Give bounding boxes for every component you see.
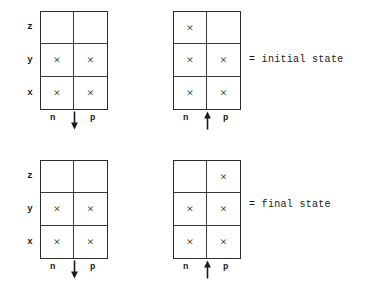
column-label-p: p [223,114,228,123]
row-label-group [155,11,171,110]
column-label-n: n [50,263,55,272]
row-label-y [155,44,171,77]
row-label-y [155,193,171,226]
x-mark: × [220,170,227,183]
spin-down-arrow-icon [70,111,79,130]
cell-x-p: × [207,77,240,109]
column-label-p: p [223,263,228,272]
cell-y-p: × [207,193,240,225]
x-mark: × [186,235,193,248]
cell-z-p: × [74,161,107,193]
x-mark: × [220,86,227,99]
x-mark: × [53,202,60,215]
row-label-z: z [22,11,38,44]
row-label-y: y [22,44,38,77]
x-mark: × [220,202,227,215]
grid-footer: n p [40,112,108,138]
cell-x-p: × [74,77,107,109]
legend-final-state: = final state [249,200,331,210]
row-label-group [155,160,171,259]
row-label-group: z y x [22,11,38,110]
x-mark: × [53,86,60,99]
row-label-x: x [22,77,38,110]
row-label-z: z [22,160,38,193]
cell-x-p: × [74,226,107,258]
cell-z-n: × [41,12,74,44]
x-mark: × [87,53,94,66]
occupancy-grid: × × × × × × [173,11,241,110]
row-label-z [155,160,171,193]
row-label-x: x [22,226,38,259]
occupancy-grid: × × × × × × [40,11,108,110]
cell-y-p: × [74,193,107,225]
grid-footer: n p [40,261,108,287]
spin-up-arrow-icon [203,111,212,130]
column-label-n: n [50,114,55,123]
x-mark: × [220,53,227,66]
row-label-x [155,226,171,259]
cell-y-n: × [41,193,74,225]
x-mark: × [87,235,94,248]
cell-x-p: × [207,226,240,258]
cell-y-n: × [174,193,207,225]
cell-z-n: × [41,161,74,193]
cell-z-n: × [174,161,207,193]
column-label-p: p [90,263,95,272]
grid-footer: n p [173,261,241,287]
cell-y-p: × [74,44,107,76]
row-label-x [155,77,171,110]
spin-down-arrow-icon [70,260,79,279]
x-mark: × [87,86,94,99]
x-mark: × [186,86,193,99]
x-mark: × [220,235,227,248]
occupancy-grid: × × × × × × [40,160,108,259]
cell-z-n: × [174,12,207,44]
cell-x-n: × [41,226,74,258]
x-mark: × [186,202,193,215]
cell-x-n: × [174,77,207,109]
column-label-n: n [183,263,188,272]
cell-z-p: × [207,12,240,44]
row-label-y: y [22,193,38,226]
column-label-p: p [90,114,95,123]
x-mark: × [53,235,60,248]
cell-z-p: × [74,12,107,44]
row-label-group: z y x [22,160,38,259]
x-mark: × [53,53,60,66]
orbital-occupancy-diagram: z y x × × × × × × n p [0,0,369,299]
row-label-z [155,11,171,44]
cell-y-p: × [207,44,240,76]
legend-initial-state: = initial state [249,55,344,65]
cell-x-n: × [174,226,207,258]
x-mark: × [186,53,193,66]
cell-z-p: × [207,161,240,193]
column-label-n: n [183,114,188,123]
cell-x-n: × [41,77,74,109]
cell-y-n: × [174,44,207,76]
occupancy-grid: × × × × × × [173,160,241,259]
grid-footer: n p [173,112,241,138]
x-mark: × [87,202,94,215]
cell-y-n: × [41,44,74,76]
x-mark: × [186,21,193,34]
spin-up-arrow-icon [203,260,212,279]
